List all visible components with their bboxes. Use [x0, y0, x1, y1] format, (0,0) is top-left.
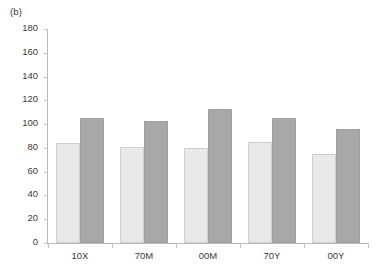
bar-00Y-series-1: [312, 154, 336, 243]
bar-70Y-series-2: [272, 118, 296, 243]
y-axis-tick-label: 60: [0, 165, 38, 176]
x-axis-tick: [48, 243, 49, 248]
y-axis-tick-label: 120: [0, 93, 38, 104]
x-axis-label-70M: 70M: [112, 250, 176, 261]
y-axis-tick-label: 0: [0, 236, 38, 247]
y-axis-tick-label: 180: [0, 22, 38, 33]
y-axis-tick-label: 80: [0, 141, 38, 152]
bar-70Y-series-1: [248, 142, 272, 243]
x-axis-tick: [368, 243, 369, 248]
x-axis-tick: [240, 243, 241, 248]
x-axis-label-10X: 10X: [48, 250, 112, 261]
panel-label: (b): [10, 6, 22, 17]
bar-70M-series-1: [120, 147, 144, 243]
y-axis-tick-label: 40: [0, 188, 38, 199]
x-axis-line: [47, 243, 369, 244]
bar-00M-series-1: [184, 148, 208, 243]
y-axis-tick-label: 100: [0, 117, 38, 128]
x-axis-tick: [112, 243, 113, 248]
x-axis-tick: [304, 243, 305, 248]
bar-00M-series-2: [208, 109, 232, 243]
x-axis-label-70Y: 70Y: [240, 250, 304, 261]
bar-70M-series-2: [144, 121, 168, 243]
y-axis-tick-label: 160: [0, 46, 38, 57]
x-axis-tick: [176, 243, 177, 248]
bar-10X-series-1: [56, 143, 80, 243]
bar-00Y-series-2: [336, 129, 360, 243]
plot-area: [48, 29, 368, 243]
bar-10X-series-2: [80, 118, 104, 243]
chart-figure: (b) 020406080100120140160180 10X70M00M70…: [0, 0, 378, 267]
y-axis-tick-label: 140: [0, 70, 38, 81]
x-axis-label-00Y: 00Y: [304, 250, 368, 261]
y-axis-tick-label: 20: [0, 212, 38, 223]
x-axis-label-00M: 00M: [176, 250, 240, 261]
